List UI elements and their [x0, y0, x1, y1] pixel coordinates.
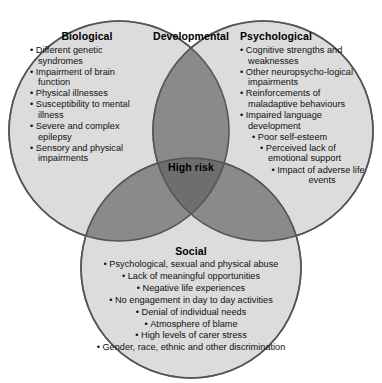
venn-diagram-figure: Biological Different genetic syndromes I… — [0, 0, 382, 383]
venn-circles-graphic — [0, 0, 382, 383]
